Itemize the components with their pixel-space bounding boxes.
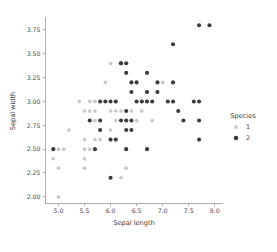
legend-label-1[interactable]: 1: [246, 123, 250, 131]
data-point: [103, 99, 107, 103]
data-point: [109, 138, 113, 142]
data-point: [98, 99, 102, 103]
y-tick-label: 3.50: [27, 50, 41, 57]
data-point: [109, 109, 113, 113]
data-point: [83, 157, 87, 161]
data-point: [57, 147, 61, 151]
data-point: [93, 109, 97, 113]
data-point: [119, 109, 123, 113]
data-point: [124, 118, 128, 122]
y-tick-label: 2.25: [27, 169, 41, 176]
data-point: [98, 128, 102, 132]
data-point: [197, 118, 201, 122]
legend-label-2[interactable]: 2: [246, 134, 250, 142]
data-point: [145, 147, 149, 151]
plot-canvas: 2.002.252.502.753.003.253.503.755.05.56.…: [0, 0, 277, 252]
data-point: [109, 176, 113, 180]
data-point: [98, 138, 102, 142]
data-point: [166, 99, 170, 103]
data-point: [129, 128, 133, 132]
data-point: [57, 166, 61, 170]
legend-title: Species: [230, 112, 256, 120]
data-point: [124, 71, 128, 75]
data-point: [176, 109, 180, 113]
series-group-1: [51, 61, 164, 198]
x-axis-title: Sepal length: [113, 219, 154, 227]
data-point: [135, 80, 139, 84]
data-point: [197, 99, 201, 103]
x-tick-label: 7.5: [184, 207, 194, 214]
data-point: [129, 80, 133, 84]
data-point: [140, 109, 144, 113]
data-point: [192, 99, 196, 103]
series-group-2: [51, 23, 211, 180]
x-tick-label: 7.0: [158, 207, 168, 214]
data-point: [114, 119, 118, 123]
data-point: [109, 99, 113, 103]
legend-swatch-2[interactable]: [234, 136, 239, 141]
data-point: [124, 61, 128, 65]
y-tick-label: 2.50: [27, 145, 41, 152]
data-point: [77, 100, 81, 104]
data-point: [93, 100, 97, 104]
data-point: [150, 119, 154, 123]
data-point: [124, 128, 128, 132]
data-point: [83, 147, 87, 151]
data-point: [93, 138, 97, 142]
data-point: [171, 80, 175, 84]
y-axis-title: Sepal width: [9, 92, 17, 131]
data-point: [150, 99, 154, 103]
data-point: [197, 138, 201, 142]
x-tick-label: 6.0: [106, 207, 116, 214]
data-point: [114, 99, 118, 103]
data-point: [181, 118, 185, 122]
data-point: [104, 81, 108, 85]
data-point: [83, 109, 87, 113]
data-point: [62, 147, 66, 151]
data-point: [171, 99, 175, 103]
data-point: [124, 109, 128, 113]
y-tick-label: 2.00: [27, 193, 41, 200]
data-point: [145, 71, 149, 75]
data-point: [135, 99, 139, 103]
x-tick-label: 5.5: [80, 207, 90, 214]
y-tick-label: 2.75: [27, 122, 41, 129]
data-point: [88, 100, 92, 104]
data-point: [135, 119, 139, 123]
data-point: [171, 42, 175, 46]
data-point: [161, 81, 165, 85]
legend-swatch-1[interactable]: [234, 125, 238, 129]
data-point: [119, 61, 123, 65]
data-point: [145, 99, 149, 103]
data-point: [119, 176, 123, 180]
data-point: [83, 138, 87, 142]
data-point: [130, 109, 134, 113]
data-point: [109, 128, 113, 132]
data-point: [145, 90, 149, 94]
data-point: [98, 118, 102, 122]
data-point: [93, 119, 97, 123]
y-tick-label: 3.75: [27, 26, 41, 33]
data-point: [119, 118, 123, 122]
data-point: [155, 80, 159, 84]
data-point: [67, 128, 71, 132]
data-point: [88, 118, 92, 122]
data-point: [88, 109, 92, 113]
data-point: [51, 157, 55, 161]
data-point: [140, 99, 144, 103]
y-tick-label: 3.00: [27, 98, 41, 105]
data-point: [109, 61, 113, 65]
data-point: [57, 195, 61, 199]
data-point: [155, 90, 159, 94]
data-point: [114, 109, 118, 113]
scatter-plot-figure: 2.002.252.502.753.003.253.503.755.05.56.…: [0, 0, 277, 252]
data-point: [124, 166, 128, 170]
data-point: [88, 147, 92, 151]
data-point: [129, 118, 133, 122]
data-point: [114, 138, 118, 142]
x-tick-label: 5.0: [54, 207, 64, 214]
data-point: [83, 166, 87, 170]
x-tick-label: 8.0: [210, 207, 220, 214]
data-point: [129, 90, 133, 94]
data-point: [51, 147, 55, 151]
